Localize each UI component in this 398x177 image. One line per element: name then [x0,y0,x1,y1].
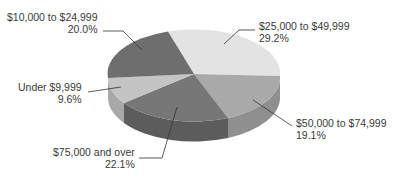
label-pct: 29.2% [259,32,350,44]
label-pct: 9.6% [18,93,82,105]
pie-top [108,29,281,121]
label-name: $10,000 to $24,999 [7,11,98,23]
label-under-9999: Under $9,999 9.6% [18,81,82,105]
label-50000-74999: $50,000 to $74,999 19.1% [296,117,387,141]
label-pct: 20.0% [7,23,98,35]
label-25000-49999: $25,000 to $49,999 29.2% [259,20,350,44]
label-pct: 19.1% [296,129,387,141]
label-10000-24999: $10,000 to $24,999 20.0% [7,11,98,35]
label-pct: 22.1% [53,158,135,170]
label-75000-over: $75,000 and over 22.1% [53,146,135,170]
label-name: $50,000 to $74,999 [296,117,387,129]
label-name: Under $9,999 [18,81,82,93]
label-name: $75,000 and over [53,146,135,158]
label-name: $25,000 to $49,999 [259,20,350,32]
